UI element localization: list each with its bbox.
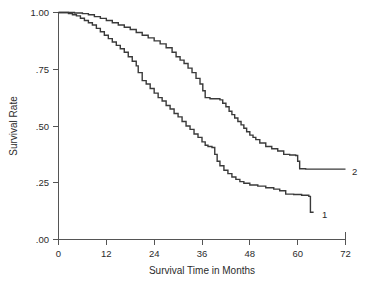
y-axis-title: Survival Rate — [8, 96, 19, 156]
y-tick-label-0-75: .75 — [36, 64, 49, 75]
axis-frame — [59, 12, 346, 240]
y-axis-ticks — [53, 13, 59, 240]
x-axis-title: Survival Time in Months — [149, 265, 255, 276]
x-tick-label-12: 12 — [101, 248, 112, 259]
series-label-2: 2 — [352, 166, 357, 177]
x-tick-label-48: 48 — [245, 248, 256, 259]
x-tick-label-36: 36 — [197, 248, 208, 259]
y-tick-label-0-00: .00 — [36, 234, 49, 245]
survival-curve-2 — [59, 13, 346, 170]
y-tick-label-0-50: .50 — [36, 121, 49, 132]
y-tick-label-1-00: 1.00 — [31, 7, 50, 18]
survival-curve-figure: 1.00 .75 .50 .25 .00 0 12 24 36 48 60 72… — [0, 0, 377, 282]
x-axis-ticks — [59, 240, 346, 246]
survival-curve-1 — [59, 13, 314, 213]
series-label-1: 1 — [322, 209, 327, 220]
y-axis-tick-labels: 1.00 .75 .50 .25 .00 — [31, 7, 50, 245]
survival-plot-svg: 1.00 .75 .50 .25 .00 0 12 24 36 48 60 72… — [0, 0, 377, 282]
x-tick-label-72: 72 — [340, 248, 351, 259]
x-tick-label-60: 60 — [292, 248, 303, 259]
y-tick-label-0-25: .25 — [36, 177, 49, 188]
x-tick-label-0: 0 — [56, 248, 61, 259]
x-tick-label-24: 24 — [149, 248, 160, 259]
x-axis-tick-labels: 0 12 24 36 48 60 72 — [56, 248, 351, 259]
